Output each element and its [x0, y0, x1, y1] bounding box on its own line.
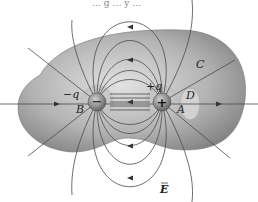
negative-charge-label: −q	[63, 88, 79, 101]
point-b-label: B	[75, 103, 84, 116]
dipole-diagram: … g … y …	[0, 0, 258, 202]
surface-d-label: D	[185, 89, 195, 102]
surface-c-label: C	[196, 58, 205, 71]
positive-charge: +	[153, 93, 171, 111]
arrow-icon	[127, 176, 133, 181]
positive-charge-label: +q	[146, 80, 162, 93]
arrow-icon	[127, 25, 133, 30]
diagram-canvas: … g … y …	[0, 0, 258, 202]
positive-sign: +	[157, 95, 168, 110]
negative-charge: −	[88, 93, 106, 111]
field-e-label: E	[159, 183, 169, 196]
title-fragment: … g … y …	[92, 0, 141, 8]
point-a-label: A	[176, 103, 185, 116]
arrow-icon	[127, 144, 133, 149]
negative-sign: −	[92, 94, 103, 109]
